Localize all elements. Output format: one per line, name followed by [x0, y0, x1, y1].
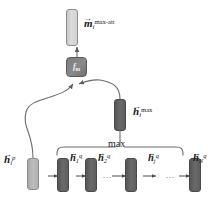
h-passage-symbol: →h: [4, 154, 10, 165]
vector-arrow-icon: →: [193, 150, 199, 158]
sequence-ellipsis-left: ...: [103, 172, 112, 180]
figure-canvas: →mimax-att fm →himax max →hip →h1q →h2q …: [0, 0, 217, 197]
h-passage-superscript: p: [12, 154, 15, 161]
h-q-label-2: →h2q: [98, 153, 110, 165]
h-passage-bar: [27, 158, 39, 190]
output-vector-bar: [66, 9, 78, 46]
output-superscript: max-att: [94, 18, 114, 25]
h-q-bar-2: [85, 158, 97, 192]
h-q-bar-j: [125, 158, 137, 192]
h-q-bar-1: [57, 158, 69, 192]
h-q-symbol-N: →h: [193, 153, 199, 164]
h-max-bar: [114, 99, 126, 131]
h-q-label-N: →hNq: [193, 153, 206, 165]
vector-arrow-icon: →: [98, 150, 104, 158]
output-vector-label: →mimax-att: [84, 18, 115, 31]
h-q-label-j: →hjq: [148, 153, 159, 165]
h-q-symbol-2: →h: [98, 153, 104, 164]
merge-function-box[interactable]: fm: [66, 57, 87, 77]
max-operation-label: max: [108, 139, 125, 149]
h-max-superscript: max: [141, 106, 152, 113]
h-passage-label: →hip: [4, 154, 15, 167]
output-symbol: →m: [84, 18, 93, 29]
merge-function-label: fm: [73, 63, 80, 72]
h-max-symbol: →h: [133, 106, 139, 117]
vector-arrow-icon: →: [133, 103, 139, 111]
vector-arrow-icon: →: [4, 151, 10, 159]
sequence-ellipsis-right: ...: [166, 172, 175, 180]
h-q-superscript-1: q: [79, 152, 82, 159]
h-max-label: →himax: [133, 106, 152, 119]
h-q-superscript-N: q: [203, 152, 206, 159]
h-q-symbol-j: →h: [148, 153, 154, 164]
h-q-superscript-2: q: [107, 152, 110, 159]
h-q-label-1: →h1q: [70, 153, 82, 165]
h-q-symbol-1: →h: [70, 153, 76, 164]
merge-function-subscript: m: [75, 65, 80, 71]
vector-arrow-icon: →: [70, 150, 76, 158]
vector-arrow-icon: →: [148, 150, 154, 158]
wire-maxpool-to-fm: [79, 80, 120, 99]
vector-arrow-icon: →: [84, 15, 93, 23]
h-q-superscript-j: q: [156, 152, 159, 159]
